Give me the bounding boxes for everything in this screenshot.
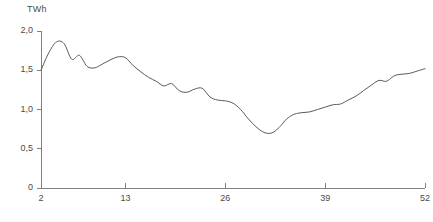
y-axis-tick-label: 0 [0, 183, 33, 192]
data-series-line [41, 41, 425, 133]
y-axis-tick-label-text: 1,0 [20, 105, 33, 114]
y-axis-tick-label-text: 0,5 [20, 144, 33, 153]
y-axis-tick-label-text: 2,0 [20, 26, 33, 35]
x-axis-ticks [41, 183, 425, 188]
x-axis-tick-label: 13 [120, 194, 130, 203]
x-axis-tick-label: 26 [220, 194, 230, 203]
line-chart: TWh 00,51,01,52,0 213263952 [0, 0, 433, 222]
chart-plot-area [0, 0, 433, 222]
y-axis-tick-label: 0,5 [0, 144, 33, 153]
y-axis-tick-label: 1,0 [0, 105, 33, 114]
y-axis-tick-label-text: 0 [28, 183, 33, 192]
y-axis [37, 31, 41, 188]
x-axis [41, 183, 425, 188]
y-axis-tick-label: 1,5 [0, 65, 33, 74]
x-axis-tick-label: 2 [38, 194, 43, 203]
y-axis-tick-label: 2,0 [0, 26, 33, 35]
x-axis-tick-label: 39 [320, 194, 330, 203]
y-axis-ticks [37, 31, 41, 188]
x-axis-tick-label: 52 [420, 194, 430, 203]
y-axis-tick-label-text: 1,5 [20, 65, 33, 74]
